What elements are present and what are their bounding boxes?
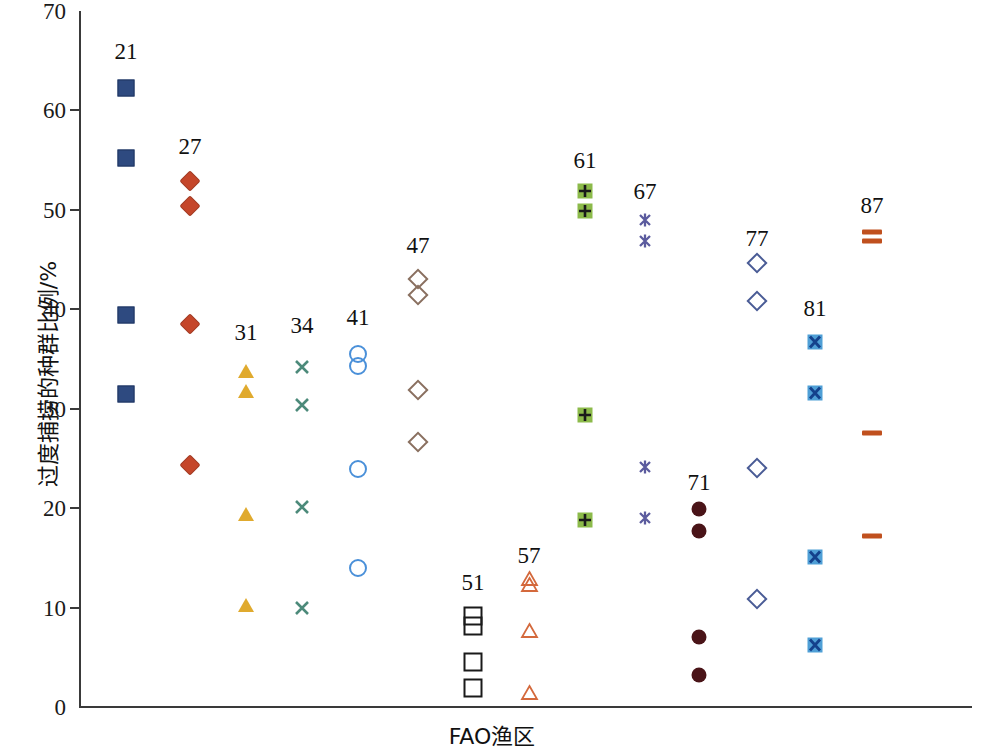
marker-dash [862,430,882,435]
y-tick-mark [70,507,79,509]
marker-diamond-open [746,252,767,273]
scatter-chart-figure: 过度捕捞的种群比例/% 010203040506070 212731344147… [0,0,984,748]
series-label-34: 34 [291,314,314,337]
x-axis-title: FAO渔区 [0,718,984,748]
marker-circle-filled [692,524,707,539]
series-label-61: 61 [574,149,597,172]
series-label-81: 81 [804,297,827,320]
y-tick-mark [70,308,79,310]
marker-circle-open [349,357,367,375]
marker-square-open [464,653,483,672]
y-tick-mark [70,607,79,609]
marker-diamond-open [746,588,767,609]
marker-circle-filled [692,630,707,645]
series-label-47: 47 [407,234,430,257]
marker-diamond-open [407,285,428,306]
marker-diamond-filled [179,314,200,335]
marker-diamond-open [407,431,428,452]
y-axis-title: 过度捕捞的种群比例/% [30,244,62,504]
marker-diamond-filled [179,170,200,191]
marker-triangle-filled [238,384,254,398]
series-label-67: 67 [634,180,657,203]
y-tick-mark [70,209,79,211]
series-label-31: 31 [235,321,258,344]
marker-triangle-filled [238,364,254,378]
marker-circle-filled [692,502,707,517]
series-label-77: 77 [746,227,769,250]
marker-diamond-filled [179,455,200,476]
y-tick-mark [70,109,79,111]
marker-circle-open [349,460,367,478]
y-tick-label: 40 [43,298,66,321]
marker-square-open [464,617,483,636]
marker-square-filled [118,307,135,324]
marker-triangle-filled [238,598,254,612]
y-tick-label: 50 [43,198,66,221]
y-tick-label: 70 [43,0,66,23]
marker-dash [862,533,882,538]
marker-circle-filled [692,668,707,683]
marker-diamond-filled [179,195,200,216]
series-label-51: 51 [462,571,485,594]
marker-dash [862,238,882,243]
series-label-57: 57 [518,544,541,567]
y-tick-label: 60 [43,99,66,122]
marker-square-open [464,679,483,698]
y-tick-label: 30 [43,397,66,420]
y-tick-label: 0 [55,696,67,719]
marker-square-filled [118,150,135,167]
series-label-41: 41 [347,306,370,329]
marker-diamond-open [407,379,428,400]
series-label-71: 71 [688,471,711,494]
y-tick-mark [70,408,79,410]
series-label-21: 21 [115,40,138,63]
series-label-87: 87 [861,194,884,217]
marker-diamond-open [746,291,767,312]
plot-area: 2127313441475157616771778187 [81,11,972,707]
series-label-27: 27 [179,135,202,158]
marker-square-filled [118,385,135,402]
y-tick-label: 10 [43,596,66,619]
marker-triangle-filled [238,507,254,521]
marker-square-filled [118,79,135,96]
marker-dash [862,229,882,234]
y-tick-label: 20 [43,497,66,520]
marker-circle-open [349,559,367,577]
marker-diamond-open [746,458,767,479]
